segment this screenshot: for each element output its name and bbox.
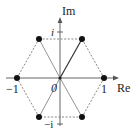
tick-label-1: 1 — [101, 82, 107, 96]
complex-plane-diagram: Im Re i −i 1 −1 0 — [0, 0, 131, 133]
origin-point — [58, 76, 61, 79]
point-omega5 — [79, 114, 85, 120]
point-1 — [101, 75, 107, 81]
real-axis-arrow-icon — [113, 76, 119, 81]
real-axis-label: Re — [117, 81, 130, 95]
tick-label-neg1: −1 — [6, 82, 19, 96]
point-omega — [79, 36, 85, 42]
tick-label-i: i — [51, 26, 54, 38]
tick-label-neg-i: −i — [44, 118, 53, 130]
point-omega4 — [36, 114, 42, 120]
axes — [6, 20, 116, 126]
point-neg1 — [14, 75, 20, 81]
origin-label: 0 — [51, 81, 57, 95]
highlight-spoke — [60, 39, 82, 78]
imag-axis-label: Im — [62, 4, 76, 18]
point-omega2 — [36, 36, 42, 42]
